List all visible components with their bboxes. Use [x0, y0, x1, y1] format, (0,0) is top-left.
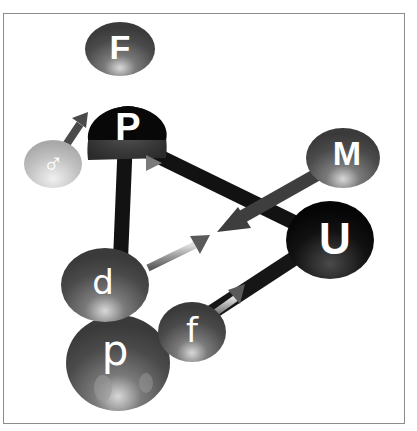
arrow-male-up — [66, 112, 88, 145]
node-p-label: p — [102, 326, 129, 375]
node-d-label: d — [92, 262, 114, 302]
node-f-label: f — [186, 310, 199, 350]
graph-diagram: F P ♂ M U p d f — [0, 0, 417, 431]
node-d[interactable]: d — [61, 248, 149, 322]
node-U-label: U — [319, 214, 351, 263]
node-M[interactable]: M — [306, 128, 380, 188]
node-p[interactable]: p — [66, 315, 170, 411]
node-male-label: ♂ — [43, 147, 64, 178]
node-U[interactable]: U — [286, 201, 374, 279]
node-P-label: P — [115, 106, 140, 148]
node-P[interactable]: P — [87, 106, 166, 160]
node-F[interactable]: F — [85, 22, 155, 76]
arrow-d-center — [148, 235, 210, 268]
node-M-label: M — [333, 134, 361, 172]
node-male[interactable]: ♂ — [24, 140, 82, 188]
node-f[interactable]: f — [158, 302, 226, 362]
node-F-label: F — [110, 28, 131, 66]
